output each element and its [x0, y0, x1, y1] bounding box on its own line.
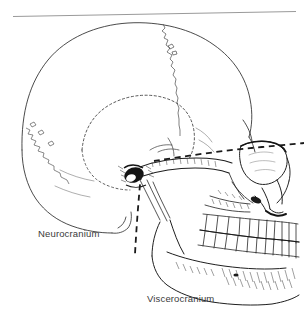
external-acoustic-meatus: [122, 165, 146, 187]
temporal-fossa-lower-arc: [82, 150, 130, 190]
temporal-lines: [55, 128, 214, 197]
lambdoid-suture: [26, 122, 69, 184]
coronal-suture: [162, 24, 180, 136]
maxilla: [205, 173, 253, 212]
facial-outline: [277, 158, 290, 203]
lower-teeth: [198, 230, 299, 258]
zygomatic-arch: [140, 158, 232, 176]
skull-figure: Neurocranium Viscerocranium: [0, 0, 304, 323]
divider-dashed-vertical: [135, 174, 141, 254]
mastoid-process: [112, 212, 131, 233]
skull-illustration: [0, 0, 304, 323]
pterion-region: [150, 138, 179, 156]
label-viscerocranium: Viscerocranium: [147, 294, 214, 304]
upper-teeth: [200, 214, 299, 243]
nasal-aperture: [255, 180, 283, 213]
horizontal-rule: [13, 12, 296, 17]
calvaria-outline: [22, 23, 252, 233]
maxilla-hatching: [212, 190, 249, 209]
label-neurocranium: Neurocranium: [38, 229, 99, 239]
divider-dashed-horizontal: [154, 143, 304, 161]
mental-foramen: [233, 273, 238, 276]
zygomatic-hatching: [152, 158, 216, 167]
